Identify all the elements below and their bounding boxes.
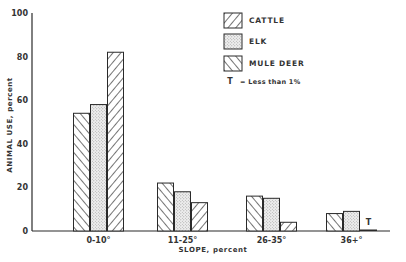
legend-swatch	[224, 34, 242, 49]
bar-group: 0-10°	[74, 52, 124, 245]
bar	[264, 198, 280, 231]
bar	[281, 222, 297, 231]
bar	[108, 52, 124, 231]
trace-marker: T	[366, 218, 372, 227]
bar	[158, 183, 174, 231]
bar	[175, 192, 191, 231]
x-tick-label: 11-25°	[168, 236, 198, 245]
y-axis-label: ANIMAL USE, percent	[6, 77, 14, 173]
y-tick-label: 60	[17, 96, 29, 105]
y-tick-label: 40	[17, 140, 29, 149]
bar	[247, 196, 263, 231]
legend: CATTLEELKMULE DEERT= Less than 1%	[224, 13, 305, 86]
bar	[327, 214, 343, 231]
y-tick-label: 20	[17, 183, 29, 192]
y-tick-label: 0	[22, 227, 28, 236]
y-tick-label: 100	[11, 9, 28, 18]
legend-note-symbol: T	[227, 77, 233, 86]
x-axis-label: SLOPE, percent	[178, 246, 247, 254]
bar	[192, 203, 208, 231]
bar-group: 26-35°	[247, 196, 297, 245]
x-tick-label: 26-35°	[257, 236, 287, 245]
legend-note-text: = Less than 1%	[240, 78, 301, 86]
bar-group: 36+°	[327, 211, 378, 245]
y-tick-label: 80	[17, 53, 29, 62]
legend-label: ELK	[249, 37, 268, 46]
bar-trace	[360, 230, 377, 232]
legend-swatch	[224, 56, 242, 71]
bar-chart: 020406080100ANIMAL USE, percentSLOPE, pe…	[0, 0, 406, 262]
legend-label: MULE DEER	[249, 59, 305, 68]
bar	[91, 105, 107, 231]
legend-label: CATTLE	[249, 16, 285, 25]
x-tick-label: 0-10°	[86, 236, 110, 245]
x-tick-label: 36+°	[341, 236, 363, 245]
bar	[74, 113, 90, 231]
bar-group: 11-25°	[158, 183, 208, 245]
bar	[344, 211, 360, 231]
legend-swatch	[224, 13, 242, 28]
